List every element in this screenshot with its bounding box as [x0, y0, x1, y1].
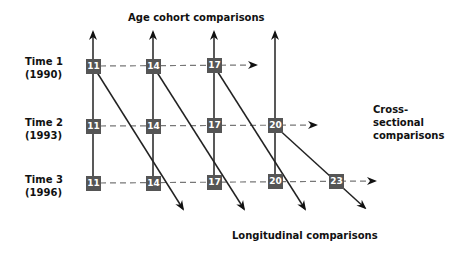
- age-box: 11: [86, 59, 101, 74]
- time-label: Time 2: [25, 116, 63, 129]
- age-cohort-arrows: [93, 32, 275, 183]
- time-label: Time 1: [25, 55, 63, 68]
- longitudinal-arrows: [93, 66, 365, 209]
- age-box: 11: [86, 176, 101, 191]
- row-label-time-3: Time 3 (1996): [25, 173, 63, 199]
- row-label-time-1: Time 1 (1990): [25, 55, 63, 81]
- age-box: 20: [268, 118, 283, 133]
- year-label: (1993): [25, 129, 63, 142]
- age-box: 20: [268, 174, 283, 189]
- age-box: 14: [146, 119, 161, 134]
- age-cohort-title: Age cohort comparisons: [128, 12, 265, 24]
- age-box: 14: [146, 176, 161, 191]
- year-label: (1996): [25, 186, 63, 199]
- row-label-time-2: Time 2 (1993): [25, 116, 63, 142]
- cross-label-line: sectional: [373, 116, 444, 129]
- longitudinal-label: Longitudinal comparisons: [232, 230, 378, 242]
- cross-label-line: comparisons: [373, 129, 444, 142]
- time-label: Time 3: [25, 173, 63, 186]
- age-box: 11: [86, 119, 101, 134]
- age-box: 17: [207, 58, 222, 73]
- age-box: 14: [146, 59, 161, 74]
- year-label: (1990): [25, 68, 63, 81]
- age-box: 23: [329, 174, 344, 189]
- cross-label-line: Cross-: [373, 103, 444, 116]
- age-box: 17: [207, 175, 222, 190]
- cross-sectional-label: Cross- sectional comparisons: [373, 103, 444, 142]
- age-box: 17: [207, 118, 222, 133]
- cross-sectional-arrows: [100, 65, 375, 183]
